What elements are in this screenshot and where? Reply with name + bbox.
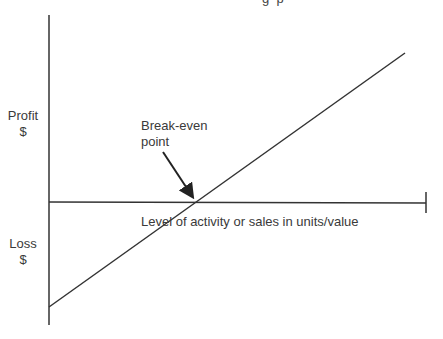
break-even-arrow-icon	[163, 152, 192, 196]
x-axis-label: Level of activity or sales in units/valu…	[141, 214, 359, 230]
break-even-label: Break-even point	[141, 118, 207, 150]
break-even-text-1: Break-even	[141, 118, 207, 134]
profit-unit: $	[6, 124, 40, 140]
profit-text: Profit	[6, 108, 40, 124]
profit-label: Profit $	[6, 108, 40, 140]
x-axis	[49, 202, 426, 203]
profit-loss-line	[49, 53, 405, 307]
loss-label: Loss $	[6, 236, 40, 268]
break-even-diagram	[0, 0, 443, 339]
cropped-title: g p	[262, 0, 284, 6]
break-even-text-2: point	[141, 134, 207, 150]
loss-text: Loss	[6, 236, 40, 252]
loss-unit: $	[6, 252, 40, 268]
